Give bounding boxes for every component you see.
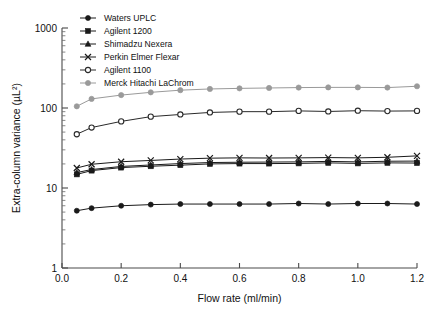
legend-label: Agilent 1200: [104, 26, 152, 36]
series-marker: [89, 125, 94, 130]
series-marker: [148, 114, 153, 119]
series-marker: [415, 202, 420, 207]
chart-background: [0, 0, 435, 320]
y-tick-label: 1: [51, 263, 57, 274]
legend-label: Shimadzu Nexera: [104, 39, 173, 49]
series-marker: [119, 119, 124, 124]
x-tick-label: 1.2: [410, 273, 424, 284]
series-marker: [326, 85, 331, 90]
series-marker: [119, 203, 124, 208]
series-marker: [267, 202, 272, 207]
series-marker: [89, 96, 94, 101]
series-marker: [355, 201, 360, 206]
series-marker: [385, 108, 390, 113]
series-marker: [414, 108, 419, 113]
series-marker: [74, 104, 79, 109]
line-chart: 11010010000.00.20.40.60.81.01.2 Waters U…: [0, 0, 435, 320]
legend-label: Agilent 1100: [104, 65, 151, 75]
x-axis-title: Flow rate (ml/min): [197, 292, 281, 304]
series-marker: [148, 202, 153, 207]
x-tick-label: 0.0: [55, 273, 69, 284]
series-marker: [207, 86, 212, 91]
series-marker: [296, 108, 301, 113]
series-marker: [148, 90, 153, 95]
legend-marker: [85, 80, 90, 85]
series-marker: [237, 109, 242, 114]
series-marker: [178, 112, 183, 117]
series-marker: [296, 201, 301, 206]
series-marker: [355, 108, 360, 113]
series-marker: [74, 132, 79, 137]
x-tick-label: 0.2: [114, 273, 128, 284]
y-tick-label: 1000: [35, 23, 58, 34]
x-tick-label: 0.4: [173, 273, 187, 284]
series-marker: [326, 109, 331, 114]
legend-marker: [85, 67, 90, 72]
series-marker: [237, 202, 242, 207]
series-marker: [89, 206, 94, 211]
series-marker: [414, 84, 419, 89]
legend-label: Waters UPLC: [104, 13, 156, 23]
series-marker: [207, 202, 212, 207]
series-marker: [326, 202, 331, 207]
y-axis-title: Extra-column variance (µL²): [10, 83, 22, 213]
x-tick-label: 0.6: [233, 273, 247, 284]
series-marker: [178, 88, 183, 93]
series-marker: [385, 85, 390, 90]
series-marker: [178, 202, 183, 207]
series-marker: [266, 109, 271, 114]
legend-marker: [86, 29, 91, 34]
legend-marker: [86, 16, 91, 21]
y-tick-label: 100: [40, 103, 57, 114]
legend-label: Merck Hitachi LaChrom: [104, 78, 194, 88]
x-tick-label: 1.0: [351, 273, 365, 284]
series-marker: [119, 92, 124, 97]
series-marker: [385, 201, 390, 206]
legend-label: Perkin Elmer Flexar: [104, 52, 180, 62]
series-marker: [355, 85, 360, 90]
chart-container: 11010010000.00.20.40.60.81.01.2 Waters U…: [0, 0, 435, 320]
y-tick-label: 10: [46, 183, 58, 194]
series-marker: [296, 85, 301, 90]
series-marker: [74, 208, 79, 213]
series-marker: [207, 110, 212, 115]
x-tick-label: 0.8: [292, 273, 306, 284]
series-marker: [266, 85, 271, 90]
series-marker: [237, 86, 242, 91]
